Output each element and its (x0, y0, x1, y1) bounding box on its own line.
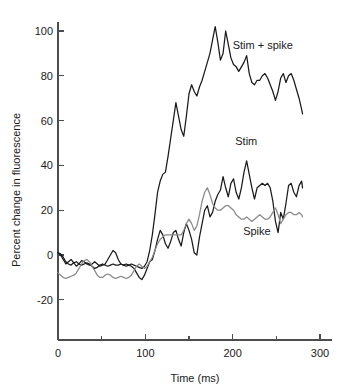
annotation-spike: Spike (243, 225, 271, 237)
y-tick-label: 60 (41, 115, 53, 127)
y-tick-label: 40 (41, 159, 53, 171)
annotation-stim-spike: Stim + spike (233, 39, 293, 51)
figure-panel: -20020406080100 0100200300 Stim + spikeS… (0, 0, 349, 391)
x-tick-label: 0 (55, 347, 61, 359)
y-axis-title: Percent change in fluorescence (10, 113, 22, 267)
x-tick-label: 100 (136, 347, 154, 359)
axes (58, 22, 332, 340)
line-chart: -20020406080100 0100200300 Stim + spikeS… (0, 0, 349, 391)
y-tick-label: -20 (37, 294, 53, 306)
x-tick-labels: 0100200300 (55, 347, 329, 359)
series-annotations: Stim + spikeStimSpike (233, 39, 293, 237)
x-tick-label: 300 (311, 347, 329, 359)
y-tick-label: 100 (35, 25, 53, 37)
x-axis-title: Time (ms) (170, 372, 219, 384)
x-tick-label: 200 (223, 347, 241, 359)
trace-stim (58, 161, 303, 280)
y-tick-label: 20 (41, 204, 53, 216)
y-tick-label: 0 (47, 249, 53, 261)
annotation-stim: Stim (235, 135, 257, 147)
y-tick-label: 80 (41, 70, 53, 82)
data-traces (58, 27, 303, 280)
y-tick-labels: -20020406080100 (35, 25, 53, 306)
